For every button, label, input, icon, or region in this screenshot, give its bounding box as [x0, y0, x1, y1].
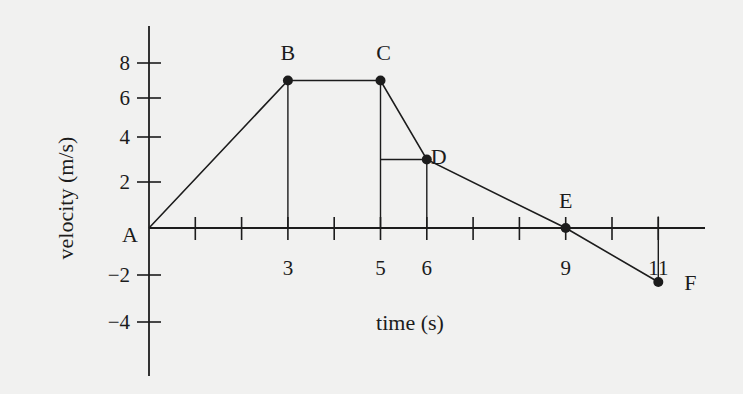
- velocity-line: [149, 81, 658, 283]
- point-b-dot: [283, 76, 293, 86]
- point-label-e: E: [559, 188, 572, 213]
- point-label-f: F: [684, 270, 696, 295]
- data-points: [283, 76, 663, 288]
- point-label-d: D: [431, 144, 447, 169]
- x-tick-label: 3: [283, 256, 294, 280]
- y-tick-label: 2: [120, 170, 131, 194]
- y-axis-label: velocity (m/s): [53, 137, 78, 260]
- y-tick-label: 4: [120, 125, 131, 149]
- y-tick-label: −2: [108, 263, 130, 287]
- y-tick-label: 6: [120, 86, 131, 110]
- x-tick-label: 9: [560, 256, 571, 280]
- x-tick-label: 11: [648, 256, 668, 280]
- y-tick-label: −4: [108, 310, 131, 334]
- x-axis-label: time (s): [376, 310, 444, 335]
- x-tick-label: 6: [422, 256, 433, 280]
- point-label-b: B: [281, 40, 296, 65]
- point-label-a: A: [122, 222, 138, 247]
- point-label-c: C: [376, 40, 391, 65]
- chart-canvas: 8642−2−4356911ABCDEFtime (s)velocity (m/…: [0, 0, 743, 394]
- velocity-polyline: [149, 81, 658, 283]
- point-c-dot: [376, 76, 386, 86]
- point-e-dot: [561, 223, 571, 233]
- velocity-time-graph: 8642−2−4356911ABCDEFtime (s)velocity (m/…: [0, 0, 743, 394]
- guide-lines: [288, 81, 658, 283]
- y-tick-label: 8: [120, 51, 131, 75]
- x-tick-label: 5: [375, 256, 386, 280]
